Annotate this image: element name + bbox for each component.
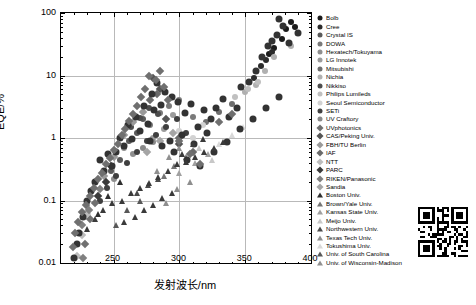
data-point (250, 116, 257, 123)
y-tick (61, 138, 65, 139)
legend-label: Univ. of Wisconsin-Madison (326, 259, 402, 267)
y-minor-tick (309, 78, 311, 79)
legend: BolbCreeCrystal ISDOWAHexatech/TokuyamaL… (316, 14, 428, 267)
data-point (285, 40, 292, 47)
legend-item[interactable]: Northwestern Univ. (316, 225, 428, 233)
data-point (166, 103, 172, 109)
y-minor-tick (61, 89, 63, 90)
x-tick (311, 13, 312, 17)
y-minor-tick (61, 108, 63, 109)
y-minor-tick (309, 171, 311, 172)
legend-item[interactable]: Nichia (316, 73, 428, 81)
legend-item[interactable]: Philips Lumileds (316, 90, 428, 98)
legend-label: RIKEN/Panasonic (326, 175, 376, 183)
x-minor-tick (219, 262, 220, 264)
y-minor-tick (309, 148, 311, 149)
legend-item[interactable]: Sandia (316, 183, 428, 191)
legend-item[interactable]: RIKEN/Panasonic (316, 174, 428, 182)
legend-item[interactable]: Seoul Semiconductor (316, 98, 428, 106)
legend-item[interactable]: Crystal IS (316, 31, 428, 39)
legend-item[interactable]: CAS/Peking Univ. (316, 132, 428, 140)
x-minor-tick (298, 13, 299, 15)
legend-marker-icon (316, 48, 323, 55)
legend-marker-icon (316, 65, 323, 72)
data-point (188, 100, 195, 107)
data-point (201, 149, 207, 155)
legend-label: Kansas State Univ. (326, 208, 378, 216)
y-minor-tick (61, 207, 63, 208)
y-minor-tick (309, 203, 311, 204)
data-point (190, 114, 196, 120)
legend-item[interactable]: UV Craftory (316, 115, 428, 123)
legend-marker-icon (316, 124, 323, 131)
y-minor-tick (309, 233, 311, 234)
y-tick (307, 201, 311, 202)
legend-item[interactable]: SETi (316, 107, 428, 115)
data-point (150, 202, 156, 208)
legend-item[interactable]: Brown/Yale Univ. (316, 200, 428, 208)
legend-item[interactable]: PARC (316, 166, 428, 174)
legend-item[interactable]: UVphotonics (316, 124, 428, 132)
legend-marker-icon (316, 23, 323, 30)
legend-label: Mitsubishi (326, 65, 354, 73)
legend-item[interactable]: Cree (316, 22, 428, 30)
legend-item[interactable]: LG Innotek (316, 56, 428, 64)
y-minor-tick (309, 108, 311, 109)
y-minor-tick (61, 157, 63, 158)
legend-item[interactable]: DOWA (316, 39, 428, 47)
legend-label: PARC (326, 166, 343, 174)
gridline-vertical (245, 13, 246, 263)
y-minor-tick (61, 210, 63, 211)
data-point (141, 207, 147, 213)
x-minor-tick (193, 262, 194, 264)
data-point (84, 226, 90, 232)
legend-marker-icon (316, 15, 323, 22)
legend-item[interactable]: Mitsubishi (316, 65, 428, 73)
legend-item[interactable]: IAF (316, 149, 428, 157)
data-point (280, 22, 287, 29)
legend-item[interactable]: Bolb (316, 14, 428, 22)
data-point (117, 179, 123, 185)
y-axis-title: EQE/% (0, 94, 6, 130)
x-tick (114, 13, 115, 17)
legend-marker-icon (316, 141, 323, 148)
data-point (263, 105, 270, 112)
data-point (294, 29, 301, 36)
legend-item[interactable]: Univ. of South Carolina (316, 250, 428, 258)
x-tick (179, 13, 180, 17)
data-point (100, 207, 106, 213)
legend-marker-icon (316, 209, 323, 216)
y-tick-label: 1 (0, 132, 56, 142)
legend-marker-icon (316, 40, 323, 47)
legend-item[interactable]: Univ. of Wisconsin-Madison (316, 259, 428, 267)
legend-item[interactable]: Boston Univ. (316, 191, 428, 199)
x-minor-tick (100, 13, 101, 15)
y-minor-tick (61, 144, 63, 145)
legend-label: Tokushima Univ. (326, 242, 371, 250)
y-minor-tick (309, 23, 311, 24)
legend-item[interactable]: Tokushima Univ. (316, 242, 428, 250)
data-point (236, 125, 243, 132)
legend-item[interactable]: Kansas State Univ. (316, 208, 428, 216)
legend-item[interactable]: FBH/TU Berlin (316, 141, 428, 149)
y-minor-tick (309, 144, 311, 145)
legend-marker-icon (316, 74, 323, 81)
y-minor-tick (309, 38, 311, 39)
legend-item[interactable]: Hexatech/Tokuyama (316, 48, 428, 56)
x-tick-label: 250 (105, 253, 120, 263)
data-point (144, 120, 151, 127)
legend-item[interactable]: Texas Tech Univ. (316, 233, 428, 241)
data-point (273, 31, 280, 38)
y-minor-tick (309, 219, 311, 220)
y-minor-tick (309, 119, 311, 120)
data-point (174, 116, 180, 122)
legend-label: NTT (326, 158, 338, 166)
legend-label: Cree (326, 23, 339, 31)
legend-item[interactable]: NTT (316, 157, 428, 165)
x-minor-tick (127, 262, 128, 264)
qr-code (418, 207, 468, 257)
data-point (255, 79, 261, 85)
legend-item[interactable]: Nikkiso (316, 82, 428, 90)
legend-item[interactable]: Meijo Univ. (316, 217, 428, 225)
y-minor-tick (61, 182, 63, 183)
